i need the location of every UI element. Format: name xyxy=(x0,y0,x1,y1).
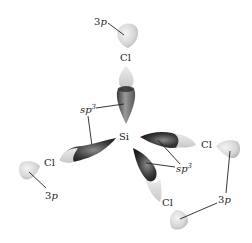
top-cl-3p-orbital xyxy=(117,24,138,49)
left-sp3-orbital xyxy=(60,138,116,163)
right-3p-label: 3p xyxy=(218,194,231,205)
diagram-canvas: 3p Cl sp3 Si Cl 3p Cl Cl xyxy=(0,0,252,243)
top-sp3-orbital xyxy=(117,66,135,124)
right-cl-label: Cl xyxy=(201,139,212,150)
sp3-right-label: sp3 xyxy=(176,162,193,174)
bottom-sp3-orbital xyxy=(133,148,162,202)
right-cl-3p-orbital xyxy=(216,140,240,158)
left-cl-label: Cl xyxy=(44,157,55,168)
bottom-cl-3p-orbital xyxy=(170,210,188,230)
sicl4-orbital-diagram: 3p Cl sp3 Si Cl 3p Cl Cl xyxy=(0,0,252,243)
top-3p-label: 3p xyxy=(94,16,107,27)
top-cl-label: Cl xyxy=(120,52,131,63)
right-3p-leader-down xyxy=(180,203,217,219)
left-3p-leader-line xyxy=(29,172,46,188)
left-cl-3p-orbital xyxy=(19,161,40,179)
left-3p-label: 3p xyxy=(45,190,58,201)
bottom-cl-label: Cl xyxy=(162,197,173,208)
sp3-left-label: sp3 xyxy=(80,103,97,115)
sp3-left-leader-down xyxy=(88,116,92,146)
right-3p-leader-up xyxy=(226,151,230,193)
si-label: Si xyxy=(119,131,129,142)
right-sp3-orbital xyxy=(140,132,196,148)
